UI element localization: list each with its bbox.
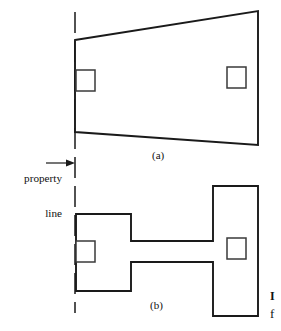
property-line-label: property line [4, 150, 62, 243]
figure-root: property line (a) (b) I f [0, 0, 281, 331]
property-line-label-line1: property [4, 173, 62, 185]
caption-a: (a) [152, 150, 164, 161]
clipped-edge-glyph-1: I [270, 288, 281, 305]
opening-a-left [76, 70, 95, 91]
caption-b: (b) [150, 300, 163, 311]
clipped-edge-text: I f [270, 288, 281, 322]
opening-b-right [227, 238, 246, 259]
shape-a-group [75, 11, 258, 145]
property-line-leader-arrow-icon [66, 160, 75, 167]
opening-b-left [76, 241, 95, 262]
opening-a-right [227, 67, 246, 88]
property-line-label-line2: line [4, 208, 62, 220]
shape-b-group [76, 186, 258, 316]
clipped-edge-glyph-2: f [270, 305, 281, 323]
